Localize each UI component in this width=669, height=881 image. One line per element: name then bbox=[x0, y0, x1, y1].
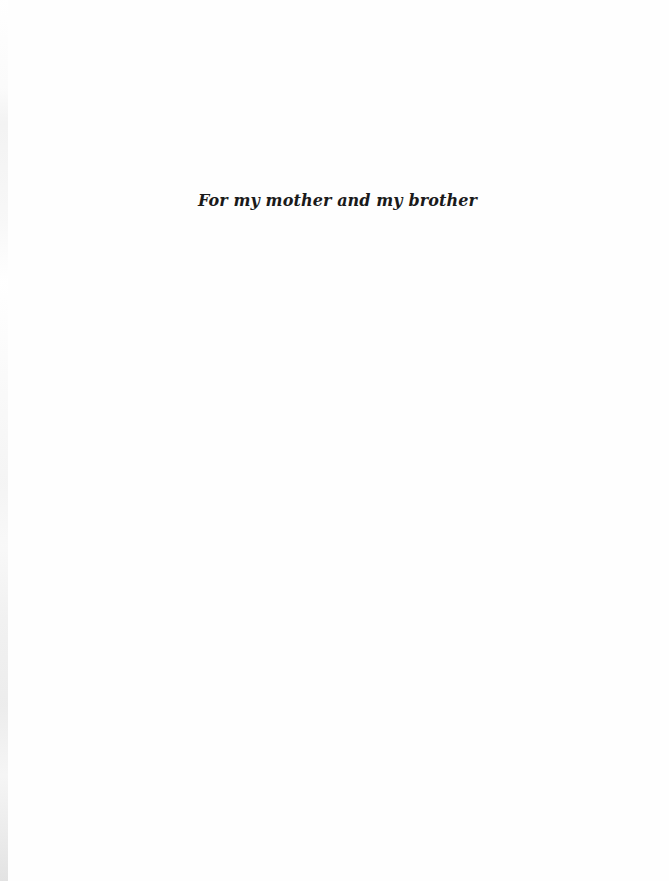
dedication-text: For my mother and my brother bbox=[0, 191, 669, 210]
scan-edge-shadow bbox=[0, 0, 8, 881]
document-page: For my mother and my brother bbox=[0, 0, 669, 881]
